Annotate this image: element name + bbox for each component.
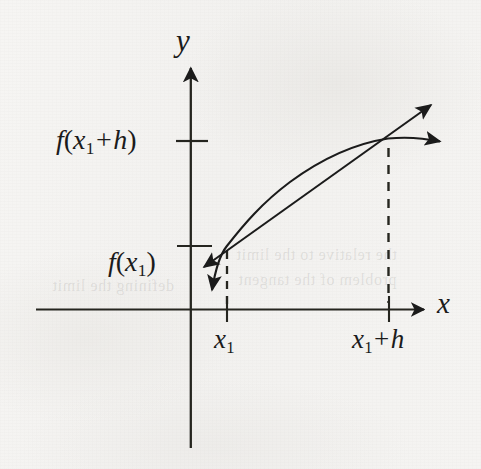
y-value-label-fx1h: f(x1+h) (56, 126, 137, 157)
y-axis-label: y (176, 25, 190, 56)
y-value-label-fx1: f(x1) (108, 248, 156, 279)
x-tick-label-x1-plus-h: x1+h (352, 326, 404, 356)
diagram-svg (0, 0, 481, 469)
figure-canvas: the relative to the limit defining the l… (0, 0, 481, 469)
x-axis-label: x (437, 289, 450, 318)
x-tick-label-x1: x1 (214, 326, 235, 356)
function-curve (212, 138, 440, 290)
secant-line (204, 105, 431, 267)
